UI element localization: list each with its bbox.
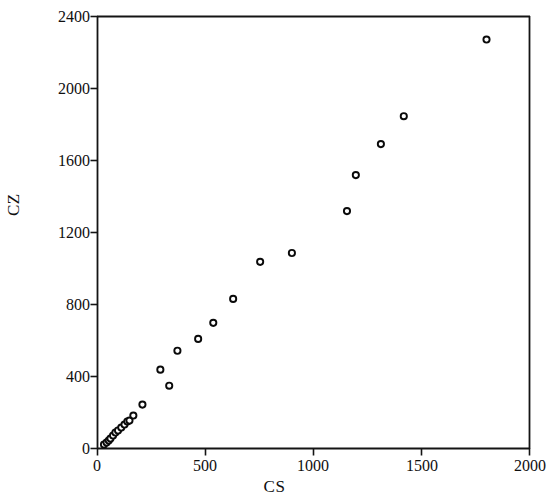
data-points bbox=[101, 36, 490, 447]
data-point bbox=[257, 259, 263, 265]
plot-frame bbox=[97, 16, 530, 449]
data-point bbox=[483, 36, 489, 42]
data-point bbox=[166, 383, 172, 389]
plot-area bbox=[0, 0, 549, 501]
scatter-chart: 2400 2000 1600 1200 800 400 0 0 500 1000… bbox=[0, 0, 549, 501]
data-point bbox=[130, 412, 136, 418]
data-point bbox=[353, 172, 359, 178]
data-point bbox=[210, 320, 216, 326]
data-point bbox=[157, 367, 163, 373]
tick-marks bbox=[91, 17, 530, 456]
data-point bbox=[195, 336, 201, 342]
data-point bbox=[289, 250, 295, 256]
data-point bbox=[139, 401, 145, 407]
data-point bbox=[401, 113, 407, 119]
data-point bbox=[174, 348, 180, 354]
data-point bbox=[378, 141, 384, 147]
data-point bbox=[230, 296, 236, 302]
data-point bbox=[344, 208, 350, 214]
